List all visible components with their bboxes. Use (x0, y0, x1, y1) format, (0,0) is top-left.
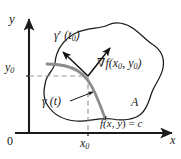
level-set-equation-label: f(x, y) = c (100, 118, 142, 129)
x-axis-label: x (170, 134, 175, 146)
gradient-vector-label: ∇f(x0, y0) (97, 57, 142, 69)
level-curve-gamma (47, 64, 105, 118)
y-axis-label: y (9, 12, 15, 25)
gamma-label-leader-line (70, 92, 93, 101)
tangent-vector-label: γ′ (t0) (54, 29, 80, 41)
origin-label: 0 (7, 135, 13, 147)
region-label: A (131, 96, 138, 108)
curve-label: γ (t) (42, 95, 61, 107)
gradient-level-curve-figure: y x 0 y0 x0 γ′ (t0) ∇f(x0, y0) γ (t) A f… (0, 0, 181, 159)
tangent-vector-arrow (63, 52, 88, 76)
diagram-canvas (0, 0, 181, 159)
x0-label: x0 (80, 137, 89, 149)
y0-label: y0 (5, 61, 14, 73)
